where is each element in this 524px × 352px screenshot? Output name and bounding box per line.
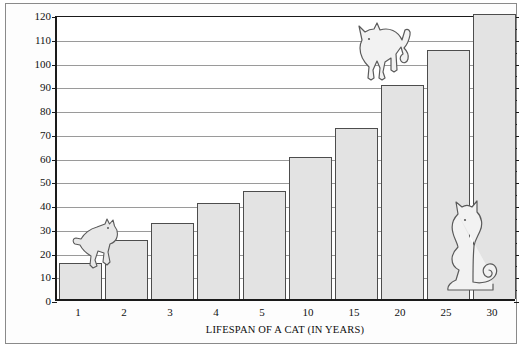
y-axis-tick-label: 70	[25, 130, 51, 141]
y-axis-tick	[52, 112, 57, 113]
bar	[59, 263, 102, 299]
plot-area	[55, 16, 515, 301]
x-axis-tick-label: 20	[379, 307, 422, 318]
y-axis-tick	[52, 183, 57, 184]
bar	[381, 85, 424, 299]
bar	[197, 203, 240, 299]
y-axis-tick-label: 40	[25, 201, 51, 212]
y-axis-tick	[52, 136, 57, 137]
x-axis-tick-label: 15	[333, 307, 376, 318]
cat-arched-back-silhouette	[351, 12, 417, 88]
x-axis-tick-label: 5	[241, 307, 284, 318]
x-axis-tick-label: 30	[471, 307, 514, 318]
bar	[151, 223, 194, 299]
y-axis-tick-label: 80	[25, 106, 51, 117]
y-axis-tick	[52, 278, 57, 279]
chart-frame: LIFESPAN OF A HUMAN (IN YEARS) 010203040…	[5, 3, 517, 344]
x-axis-title: LIFESPAN OF A CAT (IN YEARS)	[55, 324, 515, 335]
x-axis-tick-label: 4	[195, 307, 238, 318]
bar	[289, 157, 332, 300]
y-axis-tick-label: 110	[25, 35, 51, 46]
bar	[335, 128, 378, 299]
bar	[427, 50, 470, 299]
gridline	[57, 41, 514, 42]
bar	[473, 14, 516, 299]
y-axis-tick-label: 50	[25, 177, 51, 188]
y-axis-tick-label: 30	[25, 225, 51, 236]
y-axis-tick	[52, 17, 57, 18]
y-axis-tick	[52, 231, 57, 232]
bar	[243, 191, 286, 299]
x-axis-tick-labels: 123451015202530	[55, 303, 515, 321]
y-axis-tick-label: 20	[25, 249, 51, 260]
y-axis-tick-label: 90	[25, 82, 51, 93]
x-axis-tick-label: 10	[287, 307, 330, 318]
y-axis-tick-labels: 0102030405060708090100110120	[23, 16, 51, 301]
x-axis-tick-label: 25	[425, 307, 468, 318]
y-axis-tick	[52, 160, 57, 161]
y-axis-tick-label: 120	[25, 11, 51, 22]
y-axis-tick	[52, 88, 57, 89]
x-axis-tick-label: 2	[103, 307, 146, 318]
y-axis-tick-label: 60	[25, 154, 51, 165]
y-axis-tick	[52, 207, 57, 208]
y-axis-tick-label: 100	[25, 59, 51, 70]
bar	[105, 240, 148, 299]
y-axis-tick	[52, 65, 57, 66]
y-axis-tick	[52, 255, 57, 256]
y-axis-tick-label: 10	[25, 272, 51, 283]
x-axis-tick-label: 1	[57, 307, 100, 318]
y-axis-tick	[52, 41, 57, 42]
x-axis-tick-label: 3	[149, 307, 192, 318]
y-axis-tick-label: 0	[25, 296, 51, 307]
